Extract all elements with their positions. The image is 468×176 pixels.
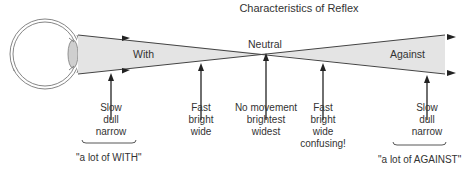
label-against: Against bbox=[390, 48, 425, 60]
eye-icon bbox=[10, 19, 82, 89]
diagram-title: Characteristics of Reflex bbox=[0, 2, 468, 14]
reflex-diagram bbox=[0, 0, 468, 176]
annotation-neutral: No movement brightest widest bbox=[231, 102, 301, 138]
label-with: With bbox=[133, 48, 154, 60]
bracket-label-against: "a lot of AGAINST" bbox=[378, 154, 461, 165]
annotation-fast-against: Fast bright wide confusing! bbox=[298, 102, 348, 150]
annotation-fast-with: Fast bright wide bbox=[181, 102, 221, 138]
bracket-label-with: "a lot of WITH" bbox=[76, 152, 141, 163]
annotation-slow-with: Slow dull narrow bbox=[91, 102, 131, 138]
annotation-slow-against: Slow dull narrow bbox=[407, 102, 447, 138]
brackets bbox=[82, 140, 446, 145]
label-neutral: Neutral bbox=[248, 38, 282, 50]
